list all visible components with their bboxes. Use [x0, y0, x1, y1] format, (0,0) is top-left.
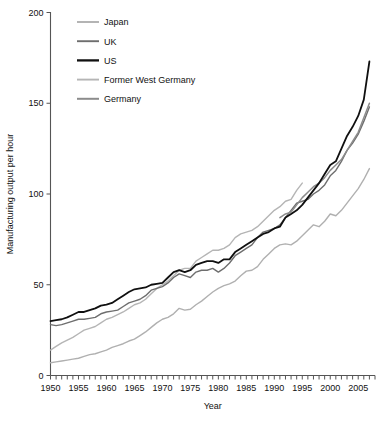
x-axis-tick-label: 1970 — [152, 383, 172, 393]
x-axis-tick-label: 1980 — [208, 383, 228, 393]
legend-label-japan: Japan — [104, 17, 129, 27]
x-axis-tick-label: 2005 — [348, 383, 368, 393]
x-axis-tick-label: 1960 — [96, 383, 116, 393]
y-axis-tick-label: 200 — [28, 8, 43, 18]
x-axis-title: Year — [204, 401, 222, 411]
legend-label-germany: Germany — [104, 94, 142, 104]
y-axis-tick-label: 0 — [38, 371, 43, 381]
x-axis-tick-label: 1995 — [292, 383, 312, 393]
chart-container: 050100150200 195019551960196519701975198… — [0, 0, 384, 423]
x-axis-tick-label: 1955 — [68, 383, 88, 393]
legend-label-former-west-germany: Former West Germany — [104, 75, 196, 85]
x-axis-tick-label: 1985 — [236, 383, 256, 393]
y-axis-title: Manufacturing output per hour — [5, 134, 15, 255]
legend-label-uk: UK — [104, 37, 117, 47]
x-axis-tick-label: 1975 — [180, 383, 200, 393]
x-axis-tick-label: 1990 — [264, 383, 284, 393]
x-axis-tick-label: 2000 — [320, 383, 340, 393]
x-axis-tick-label: 1965 — [124, 383, 144, 393]
y-axis-tick-label: 50 — [33, 280, 43, 290]
line-chart: 050100150200 195019551960196519701975198… — [0, 0, 384, 423]
legend-label-us: US — [104, 56, 117, 66]
y-axis-tick-label: 100 — [28, 189, 43, 199]
y-axis-tick-label: 150 — [28, 98, 43, 108]
plot-background — [0, 0, 384, 423]
x-axis-tick-label: 1950 — [40, 383, 60, 393]
